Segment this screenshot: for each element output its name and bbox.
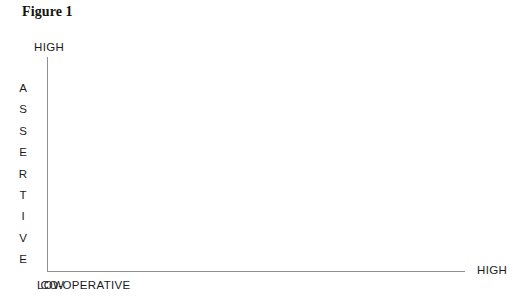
y-axis-title-letter: E: [19, 142, 27, 163]
figure-caption: Figure 1: [22, 3, 73, 21]
y-axis-title-letter: T: [19, 185, 26, 206]
y-axis-high-label: HIGH: [34, 41, 64, 54]
y-axis-title: A S S E R T I V E: [13, 78, 33, 271]
y-axis-line: [47, 57, 48, 272]
y-axis-title-letter: V: [19, 228, 27, 249]
x-axis-high-label: HIGH: [477, 264, 507, 277]
x-axis-line: [47, 271, 465, 272]
x-axis-title: CO-OPERATIVE: [0, 279, 348, 292]
y-axis-title-letter: R: [19, 164, 27, 185]
figure-canvas: Figure 1 HIGH A S S E R T I V E LOW CO-O…: [0, 0, 525, 298]
y-axis-title-letter: S: [19, 121, 27, 142]
y-axis-title-letter: E: [19, 249, 27, 270]
y-axis-title-letter: I: [21, 206, 24, 227]
y-axis-title-letter: S: [19, 99, 27, 120]
y-axis-title-letter: A: [19, 78, 27, 99]
